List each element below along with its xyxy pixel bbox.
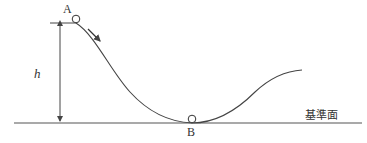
track-curve (76, 23, 302, 123)
label-reference-plane: 基準面 (305, 110, 338, 121)
label-point-a: A (63, 3, 72, 15)
label-height: h (34, 67, 41, 80)
motion-arrow-icon (88, 29, 100, 41)
ball-a (72, 15, 80, 23)
label-point-b: B (187, 126, 195, 138)
ball-b (188, 115, 196, 123)
